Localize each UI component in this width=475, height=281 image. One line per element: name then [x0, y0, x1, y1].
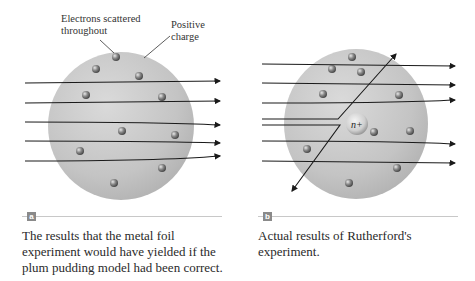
positive-charge-sphere: [48, 52, 194, 200]
panel-a-diagram: [25, 36, 220, 200]
panel-a-badge: a: [27, 212, 36, 221]
panel-b-caption: Actual results of Rutherford's experimen…: [258, 228, 468, 260]
panel-b-divider: [258, 216, 458, 217]
panel-b-badge: b: [263, 212, 272, 221]
positive-charge-callout: Positive charge: [171, 19, 231, 43]
panel-a-caption: The results that the metal foil experime…: [22, 228, 232, 276]
electrons-callout: Electrons scattered throughout: [61, 13, 151, 37]
nucleus-label: n+: [351, 119, 363, 130]
panel-a-divider: [22, 216, 222, 217]
panel-b-diagram: n+: [262, 49, 455, 199]
